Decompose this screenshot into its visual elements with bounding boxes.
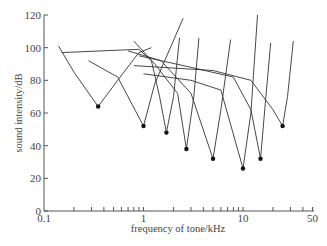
characteristic-frequency-dot (241, 166, 245, 170)
y-tick-label: 80 (30, 74, 42, 86)
x-axis-title: frequency of tone/kHz (131, 223, 226, 234)
tuning-curve (62, 38, 180, 133)
characteristic-frequency-dot (141, 124, 145, 128)
tuning-curves (59, 15, 294, 171)
x-tick-label: 0.1 (37, 212, 51, 224)
x-tick-label: 10 (238, 212, 250, 224)
tuning-curve (139, 43, 271, 159)
tuning-curve (144, 15, 258, 169)
y-tick-label: 40 (30, 140, 42, 152)
y-tick-label: 120 (25, 9, 42, 21)
characteristic-frequency-dot (96, 104, 100, 108)
tuning-curve (128, 40, 231, 159)
tuning-curve (89, 18, 184, 126)
y-axis-title: sound intensity/dB (13, 73, 24, 152)
tuning-curve (59, 46, 152, 107)
characteristic-frequency-dot (184, 147, 188, 151)
x-axis-ticks: 0.111050 (37, 207, 318, 224)
characteristic-frequency-dot (164, 130, 168, 134)
characteristic-frequency-dot (258, 157, 262, 161)
x-tick-label: 50 (307, 212, 319, 224)
characteristic-frequency-dot (211, 157, 215, 161)
characteristic-frequency-dot (280, 124, 284, 128)
y-tick-label: 60 (30, 107, 42, 119)
y-tick-label: 20 (30, 172, 42, 184)
tuning-curve-chart: 020406080100120 0.111050 frequency of to… (0, 0, 327, 246)
y-tick-label: 100 (25, 42, 42, 54)
